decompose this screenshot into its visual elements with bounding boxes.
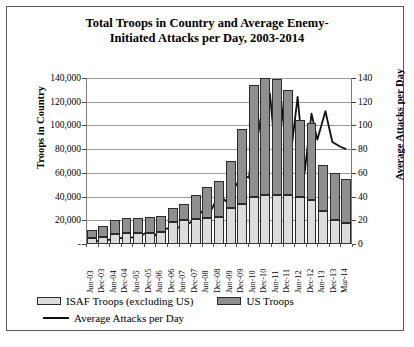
y-axis-tick-label-right: 40 — [358, 192, 368, 202]
y-axis-tick-label-right: 120 — [358, 97, 372, 107]
y-axis-tick-label-left: 80,000 — [55, 144, 81, 154]
bar-column — [318, 165, 328, 244]
bar-column — [145, 217, 155, 244]
x-axis-tick-label: Jun-05 — [132, 270, 141, 293]
x-axis-labels: Jun-03Dec-03Jun-04Dec-04Jun-05Dec-05Jun-… — [86, 247, 352, 293]
y-axis-tick-right — [352, 197, 356, 198]
bar-segment-us — [260, 78, 270, 195]
bar-column — [260, 78, 270, 244]
bar-segment-us — [249, 85, 259, 196]
legend-row-1: ISAF Troops (excluding US) US Troops — [37, 295, 377, 307]
chart-title-line1: Total Troops in Country and Average Enem… — [85, 16, 328, 30]
y-axis-labels-right: 020406080100120140 — [358, 78, 388, 244]
x-axis-tick-label: Dec-10 — [259, 269, 268, 293]
y-axis-tick-label-right: 20 — [358, 215, 368, 225]
y-axis-tick-label-left: - — [78, 239, 81, 249]
bar-segment-us — [122, 218, 132, 233]
x-axis-tick-label: Jun-03 — [86, 270, 95, 293]
bar-column — [98, 226, 108, 244]
plot-area — [86, 78, 352, 244]
x-axis-tick-label: Jun-09 — [225, 270, 234, 293]
bar-column — [237, 129, 247, 244]
y-axis-tick-label-right: 0 — [358, 239, 363, 249]
bar-column — [330, 173, 340, 244]
bar-segment-us — [191, 195, 201, 219]
bar-segment-us — [110, 220, 120, 234]
bar-segment-isaf — [214, 217, 224, 244]
legend-row-2: Average Attacks per Day — [37, 312, 377, 324]
x-axis-tick-label: Dec-11 — [282, 269, 291, 293]
bar-column — [283, 90, 293, 244]
chart-title-line2: Initiated Attacks per Day, 2003-2014 — [110, 31, 305, 45]
x-axis-tick-label: Jun-11 — [271, 271, 280, 293]
bar-segment-isaf — [133, 233, 143, 244]
x-axis-tick-label: Jun-13 — [317, 270, 326, 293]
bar-segment-isaf — [110, 234, 120, 244]
bar-segment-isaf — [272, 195, 282, 244]
y-axis-tick-right — [352, 102, 356, 103]
bar-segment-us — [330, 173, 340, 220]
bar-segment-isaf — [237, 204, 247, 244]
bar-column — [272, 79, 282, 244]
x-axis-tick-label: Jun-08 — [201, 270, 210, 293]
bar-segment-us — [87, 230, 97, 238]
bar-segment-isaf — [260, 195, 270, 244]
bar-segment-us — [179, 204, 189, 221]
y-axis-tick-right — [352, 149, 356, 150]
y-axis-tick-label-left: 20,000 — [55, 215, 81, 225]
x-axis-tick-label: Jun-04 — [109, 270, 118, 293]
x-axis-tick-label: Dec-05 — [144, 269, 153, 293]
bar-segment-us — [272, 79, 282, 195]
bar-segment-us — [237, 129, 247, 204]
bar-column — [156, 216, 166, 244]
x-axis-tick-label: Dec-04 — [120, 269, 129, 293]
x-axis-tick-label: Dec-09 — [236, 269, 245, 293]
y-axis-tick-label-left: 60,000 — [55, 168, 81, 178]
bar-segment-isaf — [318, 211, 328, 244]
bar-segment-us — [307, 123, 317, 200]
bar-column — [191, 195, 201, 244]
bar-segment-us — [341, 179, 351, 223]
bar-segment-isaf — [145, 233, 155, 244]
bar-segment-us — [145, 217, 155, 233]
bar-column — [295, 120, 305, 245]
bar-column — [168, 208, 178, 244]
y-axis-tick-label-right: 80 — [358, 144, 368, 154]
x-axis-tick-label: Mar-14 — [340, 268, 349, 293]
x-axis-tick-label: Jun-06 — [155, 270, 164, 293]
y-axis-tick-right — [352, 220, 356, 221]
legend-swatch-attacks-line — [43, 317, 69, 319]
y-axis-tick-label-left: 140,000 — [50, 73, 81, 83]
x-axis-tick — [352, 244, 353, 247]
bar-column — [214, 181, 224, 244]
bar-segment-isaf — [295, 197, 305, 244]
legend-swatch-isaf — [37, 297, 61, 305]
x-axis-tick-label: Jun-12 — [294, 270, 303, 293]
bar-segment-isaf — [283, 195, 293, 244]
bar-segment-us — [318, 165, 328, 211]
legend-label-us: US Troops — [246, 295, 293, 307]
bar-segment-isaf — [307, 200, 317, 244]
bar-segment-us — [295, 120, 305, 197]
x-axis-tick-label: Dec-06 — [167, 269, 176, 293]
bar-column — [122, 218, 132, 244]
bar-segment-us — [156, 216, 166, 233]
bar-segment-us — [202, 187, 212, 218]
legend-swatch-us — [217, 297, 241, 305]
bar-column — [179, 204, 189, 244]
bar-segment-isaf — [226, 208, 236, 244]
bar-segment-us — [133, 218, 143, 233]
y-axis-labels-left: -20,00040,00060,00080,000100,000120,0001… — [21, 78, 81, 244]
bar-column — [133, 218, 143, 244]
y-axis-tick-right — [352, 125, 356, 126]
bar-segment-us — [214, 181, 224, 217]
y-axis-tick-right — [352, 173, 356, 174]
bar-segment-isaf — [330, 220, 340, 244]
bar-column — [226, 161, 236, 244]
bar-segment-isaf — [179, 220, 189, 244]
bar-column — [110, 220, 120, 244]
bar-column — [87, 230, 97, 244]
bar-column — [307, 123, 317, 244]
bar-segment-isaf — [202, 218, 212, 244]
bar-column — [341, 179, 351, 244]
